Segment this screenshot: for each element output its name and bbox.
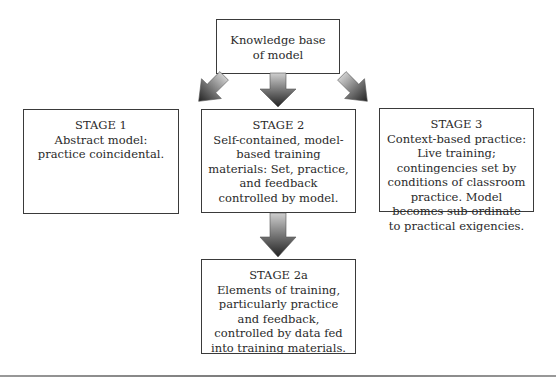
stage-3-title: STAGE 3: [380, 117, 533, 132]
knowledge-base-line-2: of model: [217, 48, 339, 63]
bottom-divider: [0, 375, 556, 377]
arrow-down-left-icon: [190, 70, 230, 110]
knowledge-base-line-1: Knowledge base: [217, 33, 339, 48]
arrow-down-right-icon: [336, 70, 376, 110]
stage-2a-box: STAGE 2a Elements of training, particula…: [201, 259, 356, 354]
stage-2a-title: STAGE 2a: [202, 268, 355, 283]
arrow-down-icon: [258, 73, 298, 109]
stage-2-title: STAGE 2: [202, 118, 355, 133]
stage-1-description: Abstract model: practice coincidental.: [24, 133, 178, 162]
stage-3-description: Context-based practice: Live training; c…: [380, 132, 533, 234]
stage-1-title: STAGE 1: [24, 118, 178, 133]
knowledge-base-box: Knowledge base of model: [216, 19, 340, 74]
stage-1-box: STAGE 1 Abstract model: practice coincid…: [23, 109, 179, 214]
stage-2a-description: Elements of training, particularly pract…: [202, 283, 355, 356]
stage-3-box: STAGE 3 Context-based practice: Live tra…: [379, 108, 534, 212]
stage-2-box: STAGE 2 Self-contained, model-based trai…: [201, 109, 356, 213]
stage-2-description: Self-contained, model-based training mat…: [202, 133, 355, 206]
arrow-down-to-stage-2a-icon: [258, 213, 298, 259]
